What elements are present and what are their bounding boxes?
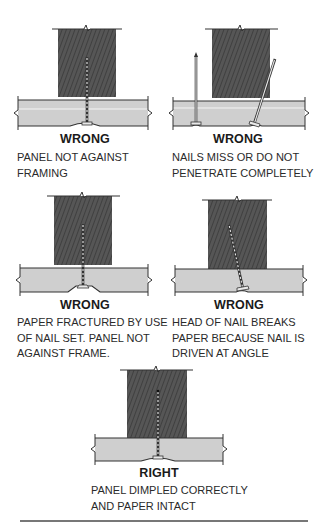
caption-line: PAPER FRACTURED BY USE: [17, 315, 168, 331]
caption-line: NAILS MISS OR DO NOT: [172, 150, 313, 166]
verdict-label: RIGHT: [119, 466, 199, 480]
stud: [120, 366, 193, 438]
caption-line: PENETRATE COMPLETELY: [172, 166, 313, 182]
caption-line: HEAD OF NAIL BREAKS: [172, 315, 305, 331]
gypsum-board: [169, 97, 309, 130]
verdict-label: WRONG: [199, 298, 279, 312]
bottom-divider: [20, 520, 308, 522]
panel-1-drawing: [14, 25, 152, 130]
panel-3-drawing: [16, 192, 152, 296]
nailing-diagram: [0, 0, 319, 527]
caption-line: PAPER BECAUSE NAIL IS: [172, 331, 305, 347]
panel-caption: PANEL NOT AGAINST FRAMING: [17, 150, 129, 181]
caption-line: PANEL DIMPLED CORRECTLY: [91, 483, 248, 499]
panel-caption: NAILS MISS OR DO NOT PENETRATE COMPLETEL…: [172, 150, 313, 181]
caption-line: PANEL NOT AGAINST: [17, 150, 129, 166]
caption-line: OF NAIL SET. PANEL NOT: [17, 331, 168, 347]
panel-5-drawing: [91, 366, 227, 465]
caption-line: DRIVEN AT ANGLE: [172, 346, 305, 362]
verdict-label: WRONG: [45, 298, 125, 312]
panel-caption: PANEL DIMPLED CORRECTLY AND PAPER INTACT: [91, 483, 248, 514]
panel-2-drawing: [169, 25, 309, 130]
panel-caption: PAPER FRACTURED BY USE OF NAIL SET. PANE…: [17, 315, 168, 362]
verdict-label: WRONG: [198, 132, 278, 146]
caption-line: AND PAPER INTACT: [91, 499, 248, 515]
panel-4-drawing: [171, 196, 307, 296]
caption-line: AGAINST FRAME.: [17, 346, 168, 362]
caption-line: FRAMING: [17, 166, 129, 182]
panel-caption: HEAD OF NAIL BREAKS PAPER BECAUSE NAIL I…: [172, 315, 305, 362]
verdict-label: WRONG: [45, 132, 125, 146]
